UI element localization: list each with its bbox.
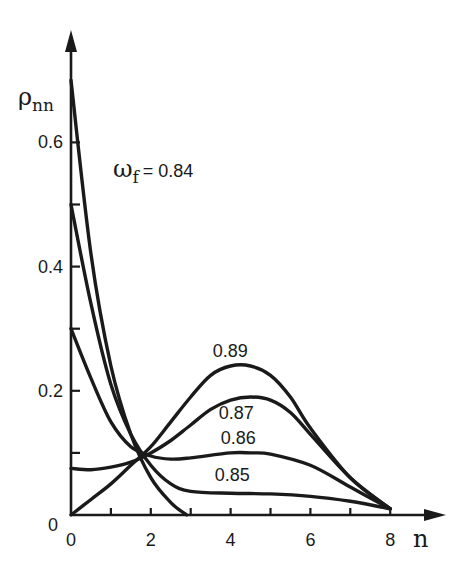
origin-label: 0 bbox=[48, 515, 58, 535]
series-label-0-89: 0.89 bbox=[213, 341, 248, 361]
x-axis-title: n bbox=[413, 525, 428, 553]
x-tick-label: 6 bbox=[305, 530, 315, 550]
y-axis-arrow-icon bbox=[65, 30, 77, 52]
series-label-0-84: ωf= 0.84 bbox=[113, 155, 193, 187]
chart: 024680.20.40.6 ρnn n 0 ωf= 0.840.850.860… bbox=[0, 0, 468, 573]
curves-layer bbox=[71, 80, 390, 515]
series-label-0-85: 0.85 bbox=[215, 465, 250, 485]
series-label-0-86: 0.86 bbox=[221, 428, 256, 448]
x-tick-label: 0 bbox=[66, 530, 76, 550]
series-labels-layer: ωf= 0.840.850.860.870.89 bbox=[113, 155, 256, 485]
y-tick-label: 0.4 bbox=[38, 257, 63, 277]
x-tick-label: 8 bbox=[385, 530, 395, 550]
x-tick-label: 4 bbox=[226, 530, 236, 550]
x-axis-arrow-icon bbox=[424, 509, 446, 521]
y-tick-label: 0.2 bbox=[38, 381, 63, 401]
x-tick-label: 2 bbox=[146, 530, 156, 550]
y-axis-title: ρnn bbox=[18, 83, 54, 115]
y-tick-label: 0.6 bbox=[38, 132, 63, 152]
series-label-0-87: 0.87 bbox=[219, 403, 254, 423]
